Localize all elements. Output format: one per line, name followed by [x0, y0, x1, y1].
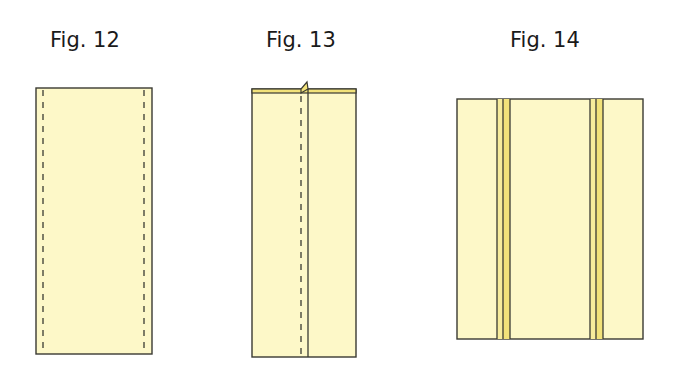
- fig-14-strip-left: [497, 99, 510, 339]
- fig-14-strip-right: [590, 99, 603, 339]
- fig-14-fabric: [457, 99, 643, 339]
- fig-14-diagram: [457, 99, 643, 339]
- fig-13-fabric: [252, 89, 356, 357]
- figures-canvas: [0, 0, 684, 386]
- fig-12-fabric: [36, 88, 152, 354]
- fig-13-diagram: [252, 82, 356, 357]
- fig-12-diagram: [36, 88, 152, 354]
